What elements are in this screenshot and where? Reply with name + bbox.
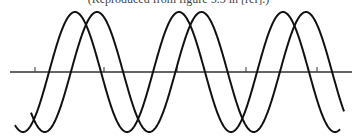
- horizontal-axis: [10, 67, 352, 72]
- sine-wave-diagram: [0, 0, 357, 140]
